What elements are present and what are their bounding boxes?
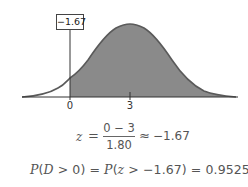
tick-label-0: 0 [67,100,73,111]
condition-1: > 0) = [54,162,104,177]
fraction-denominator: 1.80 [103,138,135,152]
prob-symbol-1: P [30,162,39,177]
tick-label-3: 3 [127,100,133,111]
variable-d: D [44,162,54,177]
condition-2: > −1.67) = 0.9525 [124,162,248,177]
z-score-formula: z = 0 − 3 1.80 ≈ −1.67 [0,122,248,152]
fraction: 0 − 3 1.80 [103,122,135,152]
z-symbol: z [76,130,82,144]
z-value: −1.67 [153,129,190,143]
z-score-label-box: −1.67 [56,14,84,30]
fraction-numerator: 0 − 3 [103,122,135,135]
fraction-bar [103,136,135,137]
probability-formula: P(D > 0) = P(z > −1.67) = 0.9525 [30,162,248,177]
normal-curve-plot [0,0,248,187]
approx-sign: ≈ [139,128,150,143]
equals-sign: = [88,128,99,143]
prob-symbol-2: P [104,162,113,177]
